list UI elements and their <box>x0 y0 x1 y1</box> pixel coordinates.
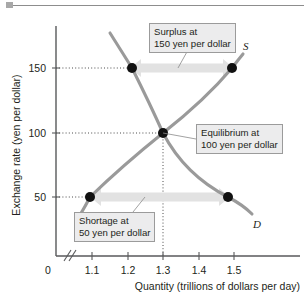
marker-demand-at-50 <box>223 192 233 202</box>
y-tick-label-100: 100 <box>28 127 46 139</box>
callout-equilibrium: Equilibrium at 100 yen per dollar <box>196 124 283 154</box>
x-axis-title: Quantity (trillions of dollars per day) <box>135 280 300 292</box>
callout-surplus-line2: 150 yen per dollar <box>154 38 231 50</box>
callout-equilibrium-line2: 100 yen per dollar <box>201 139 278 151</box>
x-tick-label-1-5: 1.5 <box>227 264 242 276</box>
y-tick-label-150: 150 <box>28 62 46 74</box>
x-tick-label-1-2: 1.2 <box>121 264 136 276</box>
callout-shortage-line2: 50 yen per dollar <box>79 227 150 239</box>
x-tick-label-1-3: 1.3 <box>156 264 171 276</box>
surplus-arrow <box>130 59 234 77</box>
y-tick-label-50: 50 <box>34 191 46 203</box>
exchange-rate-supply-demand-figure: S D 150 100 50 0 <box>0 0 308 296</box>
x-tick-label-1-1: 1.1 <box>85 264 100 276</box>
supply-curve-label: S <box>243 40 249 52</box>
callout-surplus: Surplus at 150 yen per dollar <box>149 23 236 53</box>
leader-equilibrium <box>163 133 196 139</box>
demand-curve-label: D <box>252 218 261 230</box>
marker-supply-at-150 <box>227 63 237 73</box>
shortage-arrow <box>90 188 230 206</box>
callout-shortage: Shortage at 50 yen per dollar <box>74 212 155 242</box>
marker-demand-at-150 <box>127 63 137 73</box>
y-axis-title: Exchange rate (yen per dollar) <box>10 74 22 215</box>
x-tick-label-1-4: 1.4 <box>192 264 207 276</box>
x-tick-label-0: 0 <box>45 264 51 276</box>
callout-equilibrium-line1: Equilibrium at <box>201 127 278 139</box>
callout-shortage-line1: Shortage at <box>79 215 150 227</box>
callout-surplus-line1: Surplus at <box>154 26 231 38</box>
marker-supply-at-50 <box>85 192 95 202</box>
